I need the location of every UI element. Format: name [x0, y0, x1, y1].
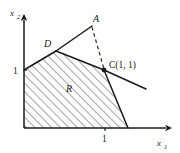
point-label-a: A — [92, 13, 100, 24]
feasible-region-diagram: x 2 x 1 1 1 A D C(1, 1) R — [0, 0, 180, 153]
x-axis-label: x — [156, 138, 161, 148]
x-axis-label-subscript: 1 — [164, 143, 167, 150]
y-axis-label: x — [9, 8, 14, 18]
vertex-point-c — [102, 68, 107, 73]
point-label-c: C(1, 1) — [109, 60, 136, 71]
point-label-d: D — [43, 38, 52, 49]
region-label-r: R — [65, 83, 72, 94]
x-axis-tick-label-1: 1 — [102, 134, 107, 144]
y-axis-tick-label-1: 1 — [13, 66, 18, 76]
